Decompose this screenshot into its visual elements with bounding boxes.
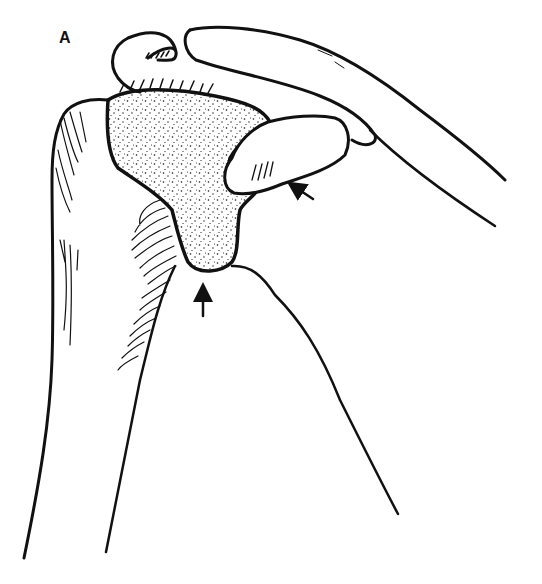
coracoid-process — [113, 33, 177, 92]
arrow-lateral — [295, 187, 313, 199]
scapular-border — [232, 266, 398, 514]
anatomical-figure: A — [0, 0, 542, 584]
shoulder-line-drawing — [0, 0, 542, 584]
